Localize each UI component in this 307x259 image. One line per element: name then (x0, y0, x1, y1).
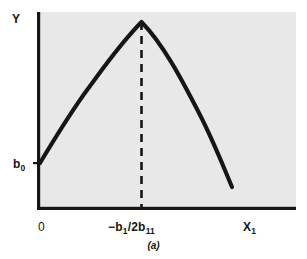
origin-label: 0 (38, 221, 45, 234)
b0-axis-label: b0 (13, 158, 25, 171)
y-axis-label: Y (12, 13, 20, 26)
vertex-x-label: −b1/2b11 (108, 221, 155, 234)
y-axis-line (37, 12, 40, 210)
x-axis-label: X1 (243, 221, 256, 234)
figure-caption: (a) (0, 240, 307, 251)
x-axis-line (37, 207, 296, 210)
plot-background (38, 12, 296, 208)
figure-container: Y b0 0 −b1/2b11 X1 (a) (0, 0, 307, 259)
